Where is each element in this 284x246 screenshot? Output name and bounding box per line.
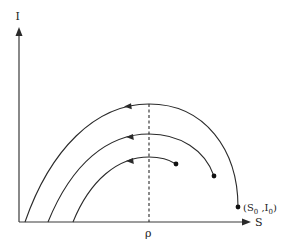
threshold-label: ρ bbox=[145, 227, 151, 240]
x-axis-label: S bbox=[255, 216, 263, 229]
start-point-label-close: ) bbox=[273, 202, 277, 213]
trajectory-inner-arrow-icon bbox=[126, 158, 134, 164]
trajectory-middle bbox=[48, 134, 214, 222]
trajectory-outer-arrow-icon bbox=[124, 103, 132, 109]
trajectory-outer-start-dot bbox=[236, 205, 241, 210]
y-axis-label: I bbox=[16, 10, 20, 23]
trajectory-middle-arrow-icon bbox=[126, 134, 134, 140]
trajectory-middle-start-dot bbox=[212, 174, 217, 179]
y-axis-arrow-icon bbox=[16, 27, 23, 36]
start-point-label-mid: ,I bbox=[258, 202, 268, 213]
start-point-label: (S0 ,I0) bbox=[243, 202, 277, 216]
trajectory-inner-start-dot bbox=[174, 162, 179, 167]
x-axis-arrow-icon bbox=[242, 219, 251, 226]
start-point-label-open: (S bbox=[243, 202, 254, 213]
trajectory-inner bbox=[73, 157, 176, 222]
sir-phase-diagram: I S ρ (S0 ,I0) bbox=[0, 0, 284, 246]
